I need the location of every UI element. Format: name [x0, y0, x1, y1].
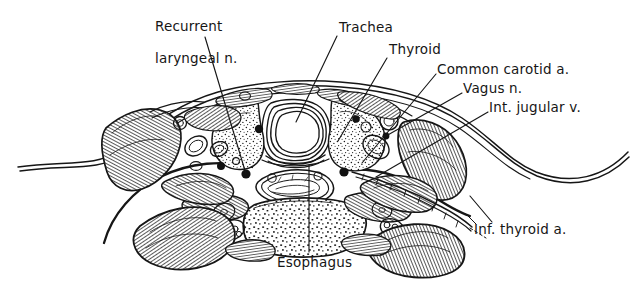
- leader-inf-thyroid-a: [470, 196, 492, 222]
- label-int-jugular-v: Int. jugular v.: [489, 100, 581, 115]
- label-recurrent-laryngeal-n-line2: laryngeal n.: [155, 50, 238, 66]
- deep-muscle-left-upper: [162, 173, 234, 204]
- label-common-carotid-a: Common carotid a.: [437, 62, 569, 77]
- label-recurrent-laryngeal-n: Recurrent laryngeal n.: [146, 2, 238, 66]
- anatomy-figure: Recurrent laryngeal n. Trachea Thyroid C…: [0, 0, 639, 281]
- label-vagus-n: Vagus n.: [463, 81, 522, 96]
- posterior-muscle-left-outer: [134, 207, 235, 269]
- label-recurrent-laryngeal-n-line1: Recurrent: [155, 18, 223, 34]
- cross-section-drawing: [0, 0, 639, 281]
- label-inf-thyroid-a: Inf. thyroid a.: [474, 222, 566, 237]
- posterior-muscle-right-inner: [342, 234, 391, 256]
- label-thyroid: Thyroid: [389, 42, 441, 57]
- label-esophagus: Esophagus: [277, 255, 352, 270]
- trachea: [262, 99, 330, 167]
- sternocleidomastoid-left: [102, 109, 181, 191]
- label-trachea: Trachea: [339, 20, 393, 35]
- posterior-muscle-left-inner: [226, 240, 276, 261]
